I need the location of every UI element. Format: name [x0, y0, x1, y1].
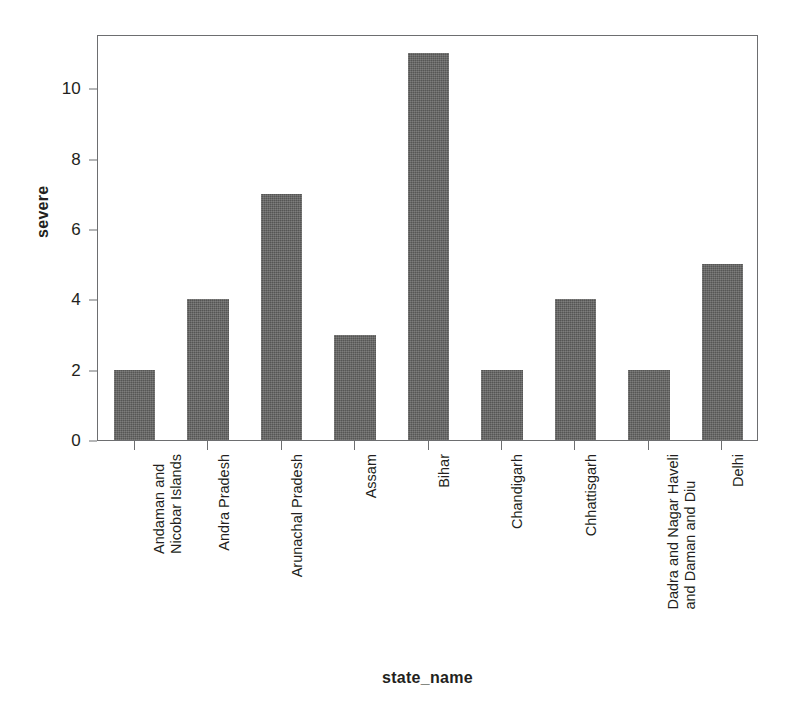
bar — [481, 370, 522, 440]
x-tick-mark — [428, 441, 429, 450]
y-tick-mark — [89, 370, 97, 371]
y-axis: severe 0246810 — [0, 0, 97, 717]
bar — [628, 370, 669, 440]
y-tick-label: 6 — [71, 220, 81, 240]
y-tick-label: 4 — [71, 290, 81, 310]
y-tick-mark — [89, 89, 97, 90]
x-tick-mark — [574, 441, 575, 450]
bar — [702, 264, 743, 440]
bars-layer — [98, 36, 757, 440]
x-tick-mark — [134, 441, 135, 450]
y-tick-label: 0 — [71, 431, 81, 451]
x-axis: Andaman andNicobar IslandsAndra PradeshA… — [97, 441, 758, 717]
bar — [187, 299, 228, 440]
y-tick-mark — [89, 300, 97, 301]
x-tick-mark — [501, 441, 502, 450]
y-tick-mark — [89, 230, 97, 231]
x-tick-label: Bihar — [436, 454, 453, 488]
y-tick-mark — [89, 441, 97, 442]
x-tick-label: Chandigarh — [509, 454, 526, 529]
bar — [114, 370, 155, 440]
x-tick-mark — [281, 441, 282, 450]
x-tick-mark — [648, 441, 649, 450]
y-tick-label: 2 — [71, 361, 81, 381]
bar-chart-figure: severe 0246810 Andaman andNicobar Island… — [0, 0, 797, 717]
y-tick-label: 10 — [62, 79, 81, 99]
x-tick-label: Dadra and Nagar Haveliand Daman and Diu — [665, 454, 699, 610]
y-axis-title: severe — [34, 185, 52, 238]
x-axis-title: state_name — [97, 669, 758, 687]
bar — [334, 335, 375, 440]
x-tick-label: Arunachal Pradesh — [289, 454, 306, 577]
y-tick-mark — [89, 159, 97, 160]
y-tick-label: 8 — [71, 150, 81, 170]
x-tick-label: Chhattisgarh — [583, 454, 600, 536]
x-tick-label: Andaman andNicobar Islands — [151, 454, 185, 554]
x-tick-label: Assam — [363, 454, 380, 498]
bar — [408, 53, 449, 440]
x-tick-mark — [354, 441, 355, 450]
x-tick-label: Andra Pradesh — [216, 454, 233, 551]
x-tick-label: Delhi — [730, 454, 747, 487]
x-tick-mark — [207, 441, 208, 450]
plot-area — [97, 35, 758, 441]
x-tick-mark — [721, 441, 722, 450]
bar — [261, 194, 302, 440]
bar — [555, 299, 596, 440]
